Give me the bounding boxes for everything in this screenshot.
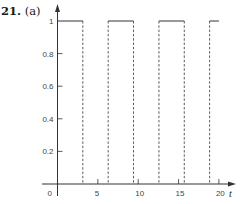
x-tick-label: 20 bbox=[216, 189, 225, 198]
y-tick-label: 1 bbox=[49, 17, 54, 26]
x-tick-label: 0 bbox=[48, 189, 53, 198]
x-axis-arrow-icon bbox=[228, 182, 236, 187]
x-tick-label: 15 bbox=[176, 189, 185, 198]
y-tick-label: 0.2 bbox=[42, 147, 54, 156]
x-tick-label: 5 bbox=[95, 189, 100, 198]
y-tick-label: 0.6 bbox=[42, 82, 54, 91]
square-wave-chart: 05101520t0.20.40.60.81 bbox=[0, 0, 242, 204]
y-tick-label: 0.4 bbox=[42, 115, 54, 124]
y-axis-arrow-icon bbox=[55, 4, 60, 12]
y-tick-label: 0.8 bbox=[42, 50, 54, 59]
x-axis-label: t bbox=[229, 188, 232, 199]
x-tick-label: 10 bbox=[135, 189, 144, 198]
